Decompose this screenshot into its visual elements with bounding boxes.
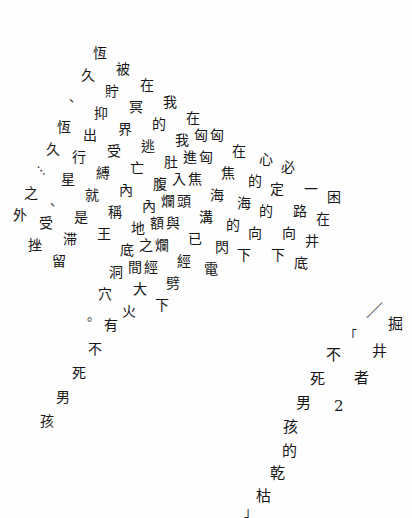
poem-char: 下 (237, 248, 251, 262)
subtitle-char-7: 枯 (256, 489, 271, 504)
poem-char: 內 (119, 183, 133, 197)
open-bracket: 「 (344, 329, 357, 342)
poem-char: 劈 (166, 276, 180, 290)
poem-char: 經 (177, 254, 191, 268)
poem-char: 肚 (164, 155, 178, 169)
poem-char: 冥 (129, 100, 143, 114)
title-char-3: 者 (354, 371, 369, 386)
poem-char: 之 (139, 238, 153, 252)
poem-char: 在 (232, 144, 246, 158)
poem-char: 進 (183, 150, 197, 164)
poem-char: 受 (107, 144, 121, 158)
poem-char: 爛 (155, 238, 169, 252)
poem-char: 死 (72, 366, 86, 380)
title-char-2: 井 (372, 344, 387, 359)
poem-char: 恆 (57, 120, 71, 134)
poem-char: 海 (237, 196, 251, 210)
subtitle-char-3: 男 (296, 396, 311, 411)
poem-char: 亡 (130, 161, 144, 175)
poem-char: 抑 (94, 106, 108, 120)
poem-char: 底 (294, 256, 308, 270)
poem-char: 久 (81, 68, 95, 82)
poem-char: 。 (87, 309, 100, 322)
poem-char: 之 (24, 186, 38, 200)
poem-char: 腹 (153, 177, 167, 191)
poem-char: 的 (259, 204, 273, 218)
poem-char: 與 (166, 216, 180, 230)
poem-char: 定 (270, 182, 284, 196)
poem-char: 困 (327, 190, 341, 204)
poem-char: 星 (61, 172, 75, 186)
poem-char: 頭 (177, 194, 191, 208)
poem-char: ⋯ (32, 161, 50, 179)
poem-char: 有 (104, 318, 118, 332)
poem-char: 火 (122, 304, 136, 318)
poem-char: 留 (52, 254, 66, 268)
poem-char: 王 (97, 227, 111, 241)
poem-char: 匈 (194, 128, 208, 142)
poem-char: 的 (248, 174, 262, 188)
poem-char: 焦 (221, 166, 235, 180)
poem-page: 恆久、被貯抑出行星、受挫恆久⋯之外在冥界受縛就是滞留我的逃亡內稱王在我肚腹內地底… (0, 0, 412, 518)
poem-char: 挫 (28, 238, 42, 252)
poem-char: 海 (210, 188, 224, 202)
poem-char: 在 (186, 111, 200, 125)
poem-char: 井 (305, 234, 319, 248)
poem-char: 縛 (96, 166, 110, 180)
poem-char: 久 (46, 142, 60, 156)
subtitle-char-1: 不 (326, 348, 341, 363)
poem-char: 、 (50, 194, 63, 207)
poem-char: 已 (188, 232, 202, 246)
poem-char: 不 (88, 342, 102, 356)
poem-char: 、 (69, 90, 82, 103)
poem-char: 受 (39, 216, 53, 230)
poem-char: 焦 (188, 172, 202, 186)
poem-char: 穴 (98, 287, 112, 301)
poem-char: 行 (72, 150, 86, 164)
subtitle-char-6: 乾 (270, 466, 285, 481)
poem-char: 界 (118, 122, 132, 136)
poem-char: 額 (150, 216, 164, 230)
poem-char: 必 (281, 160, 295, 174)
poem-char: 恆 (93, 46, 107, 60)
poem-char: 貯 (105, 84, 119, 98)
poem-char: 心 (259, 152, 273, 166)
poem-char: 爛 (161, 194, 175, 208)
poem-char: 底 (120, 243, 134, 257)
close-bracket: 」 (244, 505, 257, 518)
poem-char: 外 (13, 208, 27, 222)
poem-char: 一 (304, 182, 318, 196)
subtitle-char-2: 死 (310, 372, 325, 387)
poem-char: 閃 (215, 240, 229, 254)
poem-char: 大 (133, 282, 147, 296)
poem-char: 向 (248, 226, 262, 240)
poem-char: 經 (144, 260, 158, 274)
poem-char: 稱 (108, 205, 122, 219)
poem-char: 間 (128, 260, 142, 274)
poem-char: 電 (204, 262, 218, 276)
poem-char: 的 (226, 218, 240, 232)
poem-char: 入 (172, 172, 186, 186)
slash-mark: ／ (366, 303, 383, 320)
subtitle-char-5: 的 (282, 444, 297, 459)
poem-char: 孩 (40, 414, 54, 428)
poem-char: 在 (140, 78, 154, 92)
poem-char: 逃 (141, 139, 155, 153)
poem-char: 溝 (199, 210, 213, 224)
poem-char: 匈 (210, 128, 224, 142)
poem-char: 被 (116, 62, 130, 76)
poem-char: 下 (155, 298, 169, 312)
poem-char: 就 (85, 188, 99, 202)
poem-char: 滞 (63, 232, 77, 246)
poem-char: 的 (152, 117, 166, 131)
poem-char: 我 (175, 133, 189, 147)
poem-char: 向 (282, 226, 296, 240)
poem-char: 內 (142, 199, 156, 213)
poem-char: 出 (83, 128, 97, 142)
poem-char: 路 (293, 204, 307, 218)
poem-char: 地 (131, 221, 145, 235)
subtitle-char-4: 孩 (283, 420, 298, 435)
poem-char: 我 (163, 95, 177, 109)
poem-char: 洞 (109, 265, 123, 279)
series-number: 2 (334, 399, 344, 414)
